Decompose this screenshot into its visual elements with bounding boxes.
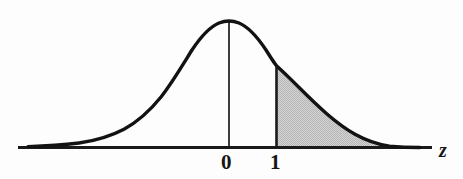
normal-distribution-figure: 0 1 z xyxy=(0,0,463,179)
shaded-tail-area xyxy=(277,66,421,148)
normal-density-curve xyxy=(28,21,420,148)
x-tick-label-one: 1 xyxy=(270,152,281,173)
bell-curve-plot xyxy=(0,0,463,179)
x-tick-label-zero: 0 xyxy=(221,152,232,173)
z-axis-label: z xyxy=(439,140,447,160)
